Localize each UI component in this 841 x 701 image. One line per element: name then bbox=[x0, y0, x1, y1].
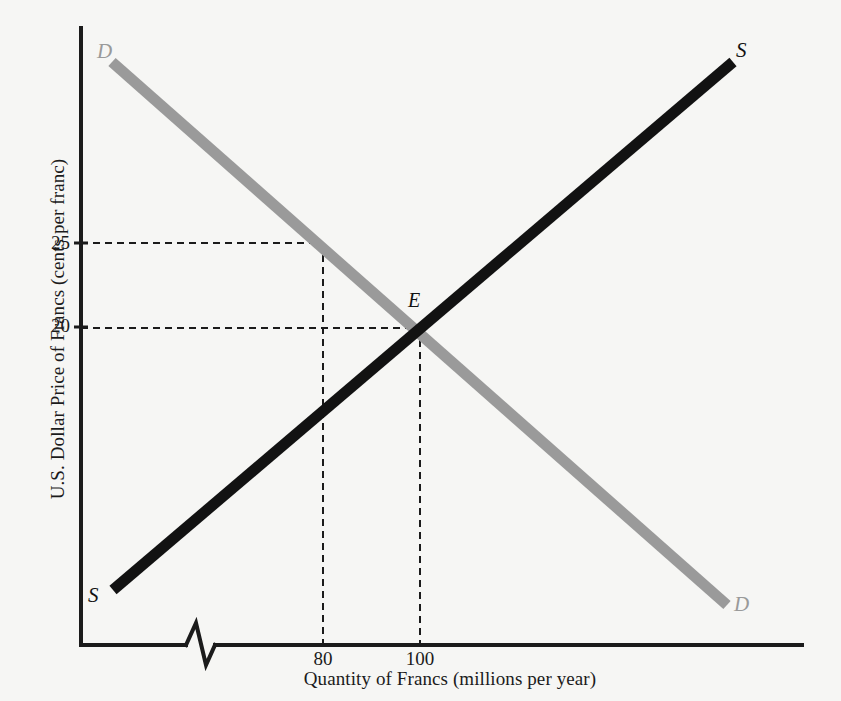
supply-demand-chart: U.S. Dollar Price of Francs (cents per f… bbox=[0, 0, 841, 701]
demand-curve-label-top: D bbox=[97, 39, 112, 64]
y-tick-label-20: 20 bbox=[24, 315, 70, 337]
demand-curve-label-bottom: D bbox=[734, 592, 749, 617]
x-tick-label-80: 80 bbox=[298, 648, 348, 670]
supply-curve-label-top: S bbox=[736, 38, 747, 63]
axis-break-icon bbox=[186, 623, 215, 665]
equilibrium-point-label: E bbox=[408, 289, 420, 312]
x-axis-title: Quantity of Francs (millions per year) bbox=[240, 668, 660, 690]
chart-canvas bbox=[0, 0, 841, 701]
supply-curve-label-bottom: S bbox=[88, 583, 99, 608]
x-tick-label-100: 100 bbox=[392, 648, 448, 670]
y-tick-label-25: 25 bbox=[24, 232, 70, 254]
